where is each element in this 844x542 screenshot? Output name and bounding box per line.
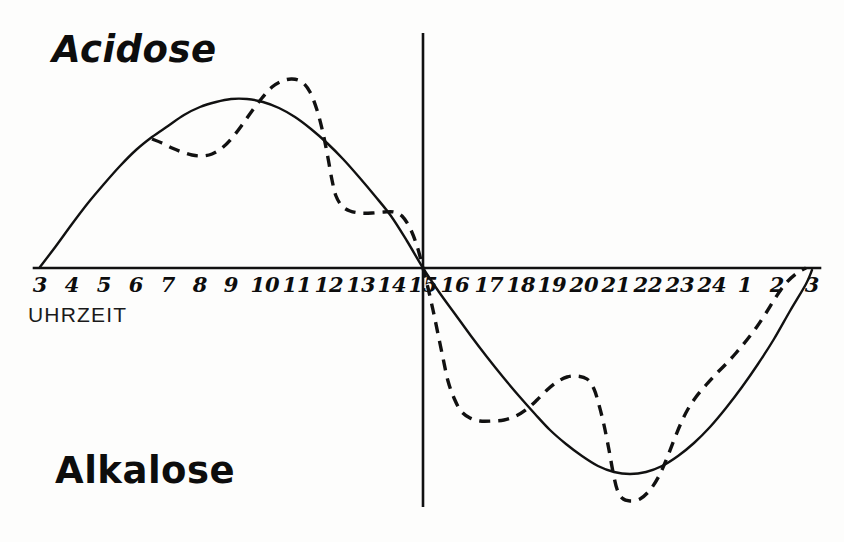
acid-base-circadian-figure: Acidose Alkalose UHRZEIT 345678910111213… <box>0 0 844 542</box>
dashed-curve-path <box>152 79 806 501</box>
plot-area <box>0 0 844 542</box>
